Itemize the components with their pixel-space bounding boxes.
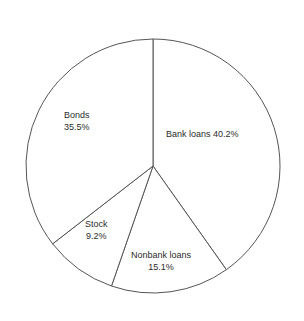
pie-chart-figure: Introduction to Finance and Macroeconomi… [0,0,304,321]
slice-label-nonbank-loans: Nonbank loans 15.1% [131,250,191,273]
slice-label-stock: Stock 9.2% [85,219,108,242]
slice-label-bank-loans-line-1: Bank loans 40.2% [166,129,239,141]
slice-label-bonds: Bonds 35.5% [64,110,90,133]
slice-label-stock-line-2: 9.2% [85,231,108,243]
slice-label-nonbank-loans-line-1: Nonbank loans [131,250,191,262]
slice-label-bonds-line-2: 35.5% [64,122,90,134]
slice-label-bank-loans: Bank loans 40.2% [166,129,239,141]
slice-label-bonds-line-1: Bonds [64,110,90,122]
slice-label-nonbank-loans-line-2: 15.1% [131,262,191,274]
slice-label-stock-line-1: Stock [85,219,108,231]
